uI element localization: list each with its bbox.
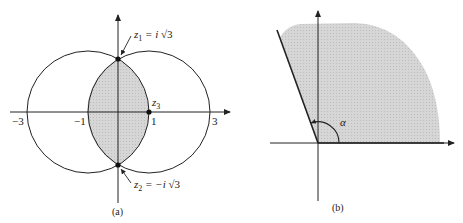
point-z1: [115, 56, 120, 61]
angle-label-alpha: α: [340, 116, 346, 128]
z2-leader-arrow: [121, 169, 131, 183]
tick-3: 3: [212, 115, 218, 127]
caption-b: (b): [332, 202, 344, 214]
point-z2: [115, 162, 120, 167]
tick-neg3: −3: [12, 115, 24, 127]
tick-neg1: −1: [74, 115, 86, 127]
caption-a: (a): [112, 206, 123, 218]
panel-a: −3 −1 1 3 z1 = i √3 z2 = −i √3 z3 (a): [10, 15, 230, 218]
label-z3: z3: [151, 96, 160, 111]
panel-b: α (b): [270, 11, 454, 214]
tick-1: 1: [151, 115, 157, 127]
z1-leader-arrow: [121, 36, 131, 55]
sector-region: [280, 23, 440, 143]
label-z2: z2 = −i √3: [133, 178, 180, 193]
point-z3: [146, 109, 151, 114]
figure-canvas: −3 −1 1 3 z1 = i √3 z2 = −i √3 z3 (a) α …: [0, 0, 463, 223]
label-z1: z1 = i √3: [133, 28, 173, 43]
